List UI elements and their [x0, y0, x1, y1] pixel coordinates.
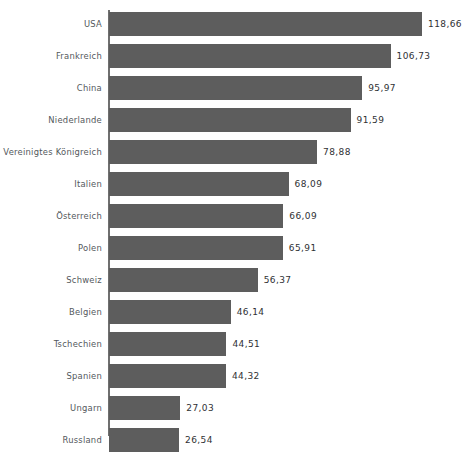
- bar-row: Schweiz56,37: [0, 268, 473, 292]
- category-label: Österreich: [0, 204, 102, 228]
- category-label: USA: [0, 12, 102, 36]
- value-label: 78,88: [323, 140, 351, 164]
- value-label: 26,54: [185, 428, 213, 452]
- bar: [109, 268, 258, 292]
- bar-row: Österreich66,09: [0, 204, 473, 228]
- value-label: 95,97: [368, 76, 396, 100]
- value-label: 56,37: [264, 268, 292, 292]
- bar-row: Italien68,09: [0, 172, 473, 196]
- value-label: 44,51: [232, 332, 260, 356]
- value-label: 106,73: [397, 44, 431, 68]
- category-label: Polen: [0, 236, 102, 260]
- value-label: 66,09: [289, 204, 317, 228]
- bar: [109, 396, 180, 420]
- bar-row: Frankreich106,73: [0, 44, 473, 68]
- bar-row: Russland26,54: [0, 428, 473, 452]
- bar-chart: USA118,66Frankreich106,73China95,97Niede…: [0, 0, 473, 452]
- plot-area: USA118,66Frankreich106,73China95,97Niede…: [0, 0, 473, 452]
- bar: [109, 332, 226, 356]
- bar: [109, 300, 231, 324]
- bar-row: Polen65,91: [0, 236, 473, 260]
- category-label: Spanien: [0, 364, 102, 388]
- category-label: Italien: [0, 172, 102, 196]
- bar: [109, 108, 351, 132]
- value-label: 91,59: [357, 108, 385, 132]
- bar-row: Belgien46,14: [0, 300, 473, 324]
- category-label: Niederlande: [0, 108, 102, 132]
- category-label: Tschechien: [0, 332, 102, 356]
- bar: [109, 140, 317, 164]
- bar: [109, 44, 391, 68]
- bar: [109, 76, 362, 100]
- category-label: Russland: [0, 428, 102, 452]
- bar: [109, 236, 283, 260]
- bar-row: Tschechien44,51: [0, 332, 473, 356]
- category-label: Schweiz: [0, 268, 102, 292]
- value-label: 27,03: [186, 396, 214, 420]
- value-label: 118,66: [428, 12, 462, 36]
- bar-row: Spanien44,32: [0, 364, 473, 388]
- category-label: Belgien: [0, 300, 102, 324]
- bar-row: Vereinigtes Königreich78,88: [0, 140, 473, 164]
- bar-row: USA118,66: [0, 12, 473, 36]
- bar: [109, 12, 422, 36]
- value-label: 44,32: [232, 364, 260, 388]
- bar-row: Ungarn27,03: [0, 396, 473, 420]
- value-label: 68,09: [295, 172, 323, 196]
- bar: [109, 428, 179, 452]
- value-label: 65,91: [289, 236, 317, 260]
- bar: [109, 364, 226, 388]
- bar: [109, 172, 289, 196]
- bar: [109, 204, 283, 228]
- category-label: Vereinigtes Königreich: [0, 140, 102, 164]
- category-label: Ungarn: [0, 396, 102, 420]
- value-label: 46,14: [237, 300, 265, 324]
- category-label: China: [0, 76, 102, 100]
- bar-row: Niederlande91,59: [0, 108, 473, 132]
- category-label: Frankreich: [0, 44, 102, 68]
- bar-row: China95,97: [0, 76, 473, 100]
